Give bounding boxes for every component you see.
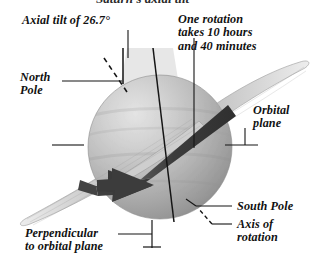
label-south-pole: South Pole — [237, 200, 293, 213]
saturn-tilt-diagram: Saturn's axial tilt — [0, 0, 315, 267]
label-orbital-plane: Orbital plane — [253, 104, 290, 131]
label-perpendicular-to-orbital-plane: Perpendicular to orbital plane — [25, 227, 103, 254]
label-one-rotation: One rotation takes 10 hours and 40 minut… — [178, 13, 257, 53]
label-axis-of-rotation: Axis of rotation — [237, 218, 278, 245]
label-axial-tilt: Axial tilt of 26.7° — [22, 14, 110, 27]
saturn-sphere — [84, 75, 238, 219]
label-north-pole: North Pole — [20, 71, 50, 98]
